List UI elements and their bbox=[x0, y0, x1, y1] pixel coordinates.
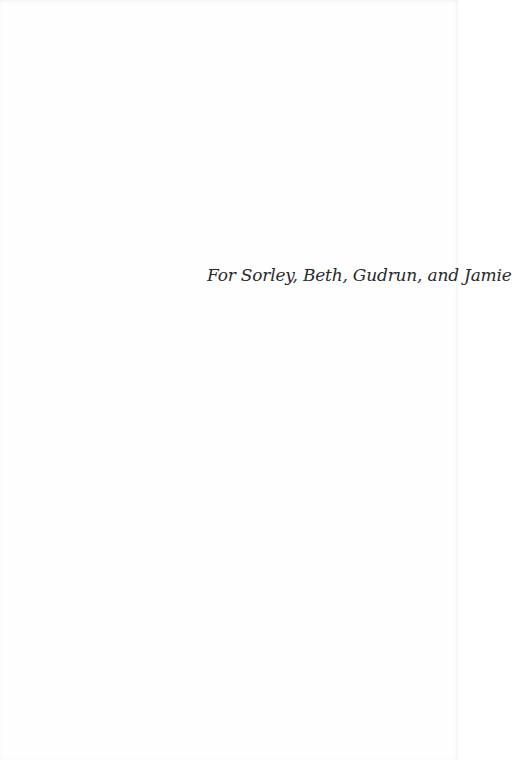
dedication-text: For Sorley, Beth, Gudrun, and Jamie bbox=[207, 265, 512, 285]
